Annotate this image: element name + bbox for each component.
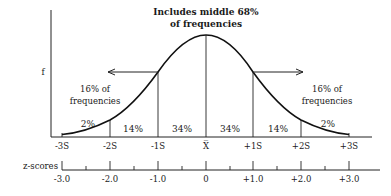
z-label: 0 xyxy=(203,174,208,184)
segment-label: 14% xyxy=(268,124,288,134)
normal-distribution-diagram: Includes middle 68% of frequencies f 16%… xyxy=(0,0,391,196)
segment-label: 34% xyxy=(220,124,240,134)
sd-label: -3S xyxy=(55,141,69,151)
title-line-1: Includes middle 68% xyxy=(153,7,259,17)
sd-label: +2S xyxy=(292,141,311,151)
z-label: -3.0 xyxy=(54,174,70,184)
segment-label: 2% xyxy=(321,119,336,129)
right-tail-label-1: 16% of xyxy=(312,84,343,94)
left-tail-label-2: frequencies xyxy=(70,96,121,106)
mean-label: X̅ xyxy=(203,140,210,151)
z-label: -1.0 xyxy=(150,174,166,184)
z-label: +3.0 xyxy=(339,174,360,184)
right-tail-label-2: frequencies xyxy=(302,96,353,106)
z-axis-label: z-scores xyxy=(23,161,58,171)
segment-label: 14% xyxy=(123,124,143,134)
z-label: +2.0 xyxy=(291,174,312,184)
sd-label: -2S xyxy=(103,141,117,151)
title-line-2: of frequencies xyxy=(170,19,242,29)
sd-label: +3S xyxy=(340,141,359,151)
sd-label: -1S xyxy=(151,141,165,151)
segment-label: 34% xyxy=(172,124,192,134)
segment-label: 2% xyxy=(81,119,96,129)
z-label: -2.0 xyxy=(102,174,118,184)
sd-label: +1S xyxy=(244,141,263,151)
z-axis-major-ticks xyxy=(62,161,349,170)
left-tail-label-1: 16% of xyxy=(80,84,111,94)
z-label: +1.0 xyxy=(243,174,264,184)
z-axis-minor-ticks xyxy=(86,166,325,170)
y-axis-label: f xyxy=(41,67,45,77)
